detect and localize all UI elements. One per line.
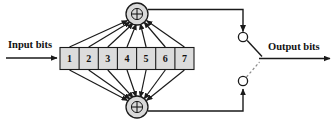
- shift-register: 1 2 3 4 5 6 7: [60, 48, 194, 70]
- lower-tap-wires: [70, 70, 185, 101]
- output-bits-label: Output bits: [268, 41, 320, 52]
- convolutional-encoder-diagram: Input bits 1 2 3 4 5 6 7: [0, 0, 334, 126]
- register-stage-1: 1: [67, 53, 72, 64]
- lower-modulo-2-adder: [126, 96, 148, 118]
- lower-adder-output-wire: [148, 89, 243, 111]
- upper-tap-7: [147, 21, 185, 48]
- input-bits-label: Input bits: [8, 39, 52, 50]
- upper-adder-output-wire: [148, 10, 243, 32]
- upper-modulo-2-adder: [126, 3, 148, 25]
- register-stage-3: 3: [105, 53, 110, 64]
- lower-tap-2: [89, 70, 130, 99]
- commutator-dashed-link: [247, 62, 260, 77]
- commutator-arm[interactable]: [247, 41, 262, 57]
- lower-tap-5: [140, 70, 146, 98]
- register-stage-7: 7: [182, 53, 187, 64]
- lower-switch-contact[interactable]: [238, 76, 247, 85]
- upper-tap-1: [70, 21, 128, 48]
- upper-tap-wires: [70, 21, 185, 48]
- encoder-schematic: Input bits 1 2 3 4 5 6 7: [0, 0, 334, 126]
- register-stage-6: 6: [163, 53, 168, 64]
- output-commutator[interactable]: [238, 32, 262, 85]
- register-stage-2: 2: [86, 53, 91, 64]
- lower-tap-7: [147, 70, 185, 101]
- lower-tap-1: [70, 70, 128, 101]
- lower-tap-3: [108, 70, 134, 98]
- upper-tap-2: [89, 22, 130, 47]
- upper-tap-3: [108, 23, 134, 47]
- register-stage-4: 4: [125, 53, 130, 64]
- upper-tap-5: [140, 24, 146, 48]
- upper-switch-contact[interactable]: [238, 32, 247, 41]
- register-stage-5: 5: [144, 53, 149, 64]
